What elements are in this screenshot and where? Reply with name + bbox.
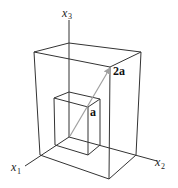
vector-2a-arrow [70, 68, 110, 136]
x2-axis [69, 137, 157, 161]
vector-a-label: a [90, 105, 96, 119]
svg-text:1: 1 [17, 167, 21, 176]
svg-text:3: 3 [68, 12, 72, 21]
x1-axis [25, 137, 69, 166]
x3-label: x 3 [61, 6, 72, 21]
svg-text:x: x [10, 160, 17, 174]
vector-scaling-diagram: x 3 x 1 x 2 2a a [0, 0, 178, 188]
svg-text:x: x [61, 6, 68, 20]
x2-label: x 2 [154, 155, 165, 171]
svg-text:x: x [154, 155, 161, 169]
vector-2a-label: 2a [113, 64, 125, 78]
axes [25, 20, 157, 166]
svg-text:2: 2 [161, 162, 165, 171]
x1-label: x 1 [10, 160, 21, 176]
